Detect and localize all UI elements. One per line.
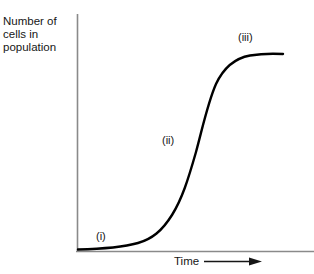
x-axis-label-group: Time (174, 255, 266, 268)
x-axis-label: Time (174, 255, 199, 268)
growth-curve-figure: Number of cells in population Time (i) (… (0, 0, 314, 274)
right-arrow-icon (204, 256, 266, 267)
growth-curve-path (78, 54, 283, 250)
y-axis-label: Number of cells in population (3, 15, 75, 55)
annotation-phase-1: (i) (96, 230, 106, 242)
annotation-phase-3: (iii) (238, 31, 253, 43)
annotation-phase-2: (ii) (162, 134, 174, 146)
